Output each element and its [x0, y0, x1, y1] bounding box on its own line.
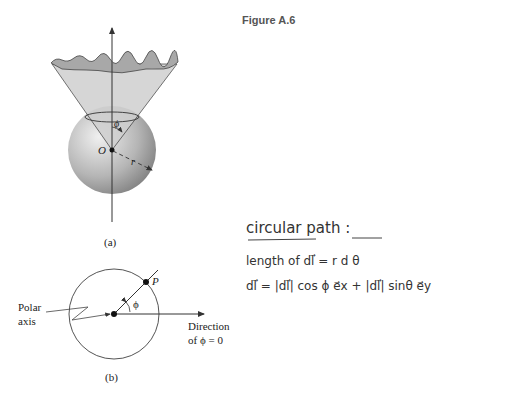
diagram-b-polar: P ϕ Polar axis Direction of ϕ = 0 (b): [18, 269, 230, 384]
angle-label-a: ϕ: [114, 118, 119, 129]
point-label-p: P: [151, 275, 159, 287]
radius-label: r: [131, 156, 135, 167]
polar-axis-pointer: [46, 307, 110, 320]
notes-line-1: length of dl⃗ = r d θ: [246, 254, 360, 268]
caption-a: (a): [104, 236, 117, 249]
pole-point: [111, 311, 117, 317]
angle-label-b: ϕ: [133, 298, 139, 310]
notes-line-2: dl⃗ = |dl⃗| cos ϕ e⃗x + |dl⃗| sinθ e⃗y: [246, 279, 431, 293]
point-p: [143, 279, 149, 285]
angle-arc-b: [126, 302, 130, 312]
diagram-a-sphere-cone: ϕ O r (a): [51, 28, 178, 249]
direction-label-2: of ϕ = 0: [188, 334, 223, 346]
direction-label-1: Direction: [188, 320, 230, 332]
notes-heading: circular path :: [246, 219, 350, 237]
origin-label: O: [98, 144, 106, 156]
polar-axis-label-2: axis: [18, 315, 36, 327]
figure-canvas: Figure A.6: [0, 0, 506, 401]
cone-cap: [51, 50, 178, 72]
caption-b: (b): [105, 371, 118, 384]
handwritten-notes: circular path : length of dl⃗ = r d θ dl…: [246, 219, 431, 293]
heading-underline-1: [248, 239, 316, 240]
polar-axis-label-1: Polar: [18, 301, 42, 313]
